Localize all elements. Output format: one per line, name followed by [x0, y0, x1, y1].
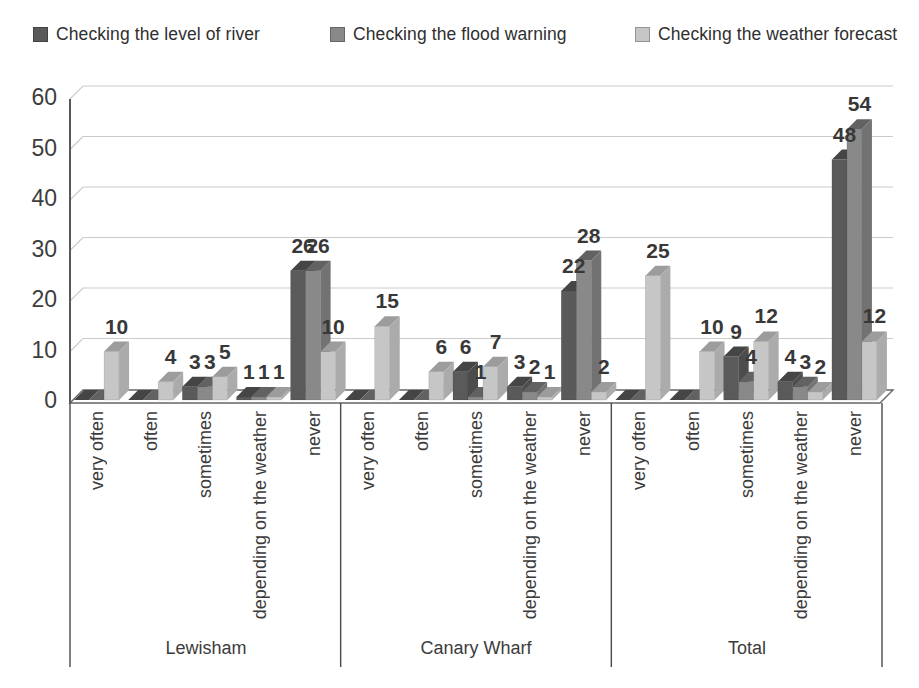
bar-side: [119, 342, 129, 401]
bar-front-Total-sometimes: [739, 382, 754, 400]
bar-side: [877, 331, 887, 400]
bar-value-label: 5: [219, 340, 231, 363]
bar-front-Canary Wharf-sometimes: [453, 372, 468, 400]
bar-value-label: 22: [562, 254, 585, 277]
bar-value-label: 3: [204, 350, 216, 373]
bar-front-Lewisham-depending on the weather: [236, 397, 251, 400]
bar-front-Lewisham-depending on the weather: [266, 397, 281, 400]
bar-front-Canary Wharf-never: [591, 392, 606, 400]
bar-front-Lewisham-never: [321, 352, 336, 401]
bar-front-Canary Wharf-depending on the weather: [537, 397, 552, 400]
bar-front-Lewisham-never: [306, 271, 321, 400]
bar-front-Canary Wharf-very often: [375, 326, 390, 400]
bar-value-label: 15: [376, 289, 400, 312]
bar-value-label: 12: [863, 304, 886, 327]
y-tick-label: 0: [44, 387, 57, 413]
bar-front-Canary Wharf-depending on the weather: [507, 387, 522, 400]
bar-front-Total-often: [700, 352, 715, 401]
bar-value-label: 1: [544, 360, 556, 383]
bar-value-label: 1: [273, 360, 285, 383]
bar-front-Lewisham-depending on the weather: [251, 397, 266, 400]
gridline: [70, 137, 893, 150]
bar-value-label: 4: [784, 345, 796, 368]
bar-front-Lewisham-very often: [104, 352, 119, 401]
bar-front-Canary Wharf-never: [561, 291, 576, 400]
bar-value-label: 10: [105, 315, 128, 338]
bar-value-label: 25: [646, 239, 670, 262]
bar-front-Lewisham-never: [291, 271, 306, 400]
bar-chart-canvas: 0102030405060104335111262610156617321222…: [0, 0, 919, 688]
group-label-total: Total: [637, 638, 857, 659]
category-label: often: [682, 411, 704, 451]
bar-side: [769, 331, 779, 400]
bar-front-Lewisham-sometimes: [182, 387, 197, 400]
bar-value-label: 6: [436, 335, 448, 358]
bar-value-label: 10: [700, 315, 723, 338]
gridline: [70, 86, 893, 99]
gridline: [70, 187, 893, 200]
bar-value-label: 6: [460, 335, 472, 358]
y-tick-label: 30: [31, 236, 57, 262]
bar-front-Canary Wharf-sometimes: [468, 397, 483, 400]
bar-value-label: 9: [730, 320, 742, 343]
bar-front-Total-never: [847, 129, 862, 400]
bar-value-label: 2: [598, 355, 610, 378]
gridline: [70, 238, 893, 251]
bar-side: [390, 316, 400, 400]
y-tick-label: 10: [31, 337, 57, 363]
bar-value-label: 12: [754, 304, 777, 327]
bar-value-label: 48: [833, 123, 857, 146]
bar-value-label: 4: [745, 345, 757, 368]
y-tick-label: 20: [31, 286, 57, 312]
category-label: sometimes: [194, 411, 216, 498]
category-label: never: [303, 411, 325, 456]
y-tick-label: 60: [31, 84, 57, 110]
category-label: often: [140, 411, 162, 451]
bar-value-label: 10: [321, 315, 344, 338]
bar-value-label: 3: [189, 350, 201, 373]
y-tick-label: 40: [31, 185, 57, 211]
category-label: sometimes: [465, 411, 487, 498]
bar-front-Canary Wharf-depending on the weather: [522, 392, 537, 400]
bar-value-label: 2: [529, 355, 541, 378]
bar-side: [336, 342, 346, 401]
chart-page: { "chart_data": { "type": "bar", "style"…: [0, 0, 919, 688]
bar-value-label: 1: [475, 360, 487, 383]
bar-front-Total-depending on the weather: [778, 382, 793, 400]
bar-front-Lewisham-often: [158, 382, 173, 400]
category-label: sometimes: [736, 411, 758, 498]
bar-value-label: 54: [848, 92, 872, 115]
bar-value-label: 7: [490, 330, 502, 353]
bar-side: [660, 266, 670, 400]
category-label: never: [844, 411, 866, 456]
bar-value-label: 1: [243, 360, 255, 383]
bar-front-Lewisham-sometimes: [212, 377, 227, 400]
group-label-lewisham: Lewisham: [96, 638, 316, 659]
category-label: very often: [357, 411, 379, 490]
bar-front-Lewisham-sometimes: [197, 387, 212, 400]
bar-value-label: 1: [258, 360, 270, 383]
category-label: depending on the weather: [790, 411, 812, 619]
bar-value-label: 4: [165, 345, 177, 368]
category-label: often: [411, 411, 433, 451]
bar-value-label: 28: [577, 224, 601, 247]
bar-value-label: 26: [306, 234, 329, 257]
y-tick-label: 50: [31, 135, 57, 161]
bar-value-label: 3: [514, 350, 526, 373]
bar-front-Total-depending on the weather: [808, 392, 823, 400]
bar-front-Total-never: [832, 160, 847, 400]
category-label: never: [573, 411, 595, 456]
category-label: depending on the weather: [249, 411, 271, 619]
bar-front-Total-sometimes: [724, 357, 739, 400]
category-label: depending on the weather: [519, 411, 541, 619]
category-label: very often: [628, 411, 650, 490]
bar-value-label: 3: [799, 350, 811, 373]
gridline: [70, 288, 893, 301]
category-label: very often: [86, 411, 108, 490]
group-label-canary-wharf: Canary Wharf: [366, 638, 586, 659]
bar-front-Total-depending on the weather: [793, 387, 808, 400]
bar-front-Canary Wharf-often: [429, 372, 444, 400]
bar-side: [715, 342, 725, 401]
bar-value-label: 2: [814, 355, 826, 378]
bar-front-Total-very often: [645, 276, 660, 400]
